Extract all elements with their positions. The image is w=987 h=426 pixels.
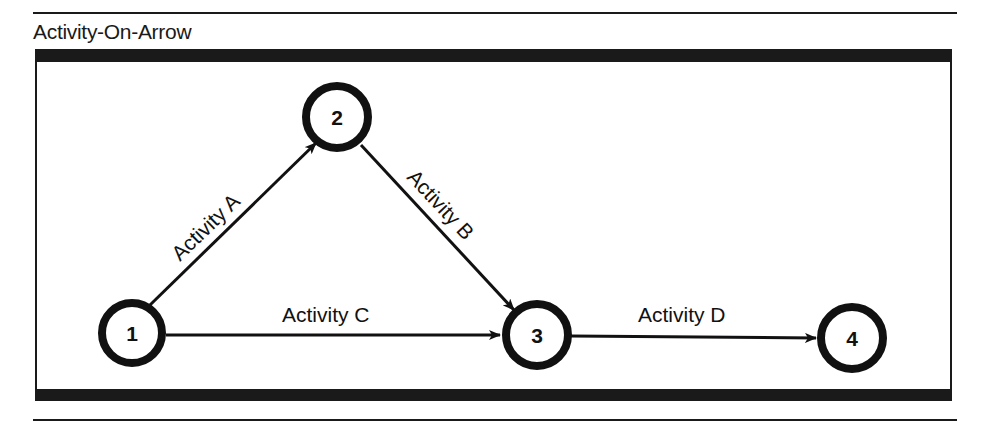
node-label: 2 [331,106,343,129]
edge-activity-c: Activity C [166,303,500,335]
node-label: 4 [846,327,858,350]
node-2: 2 [306,86,368,148]
edge-activity-a: Activity A [150,143,316,305]
arrow-d [571,336,816,338]
edge-label-d: Activity D [638,303,726,326]
edge-label-a: Activity A [167,189,244,265]
activity-on-arrow-diagram: Activity A Activity B Activity C Activit… [0,0,987,426]
node-1: 1 [102,303,162,363]
edge-label-c: Activity C [282,303,370,326]
node-3: 3 [506,304,568,366]
node-label: 1 [126,322,138,345]
edge-activity-b: Activity B [361,145,514,310]
arrow-a [150,143,316,305]
edge-activity-d: Activity D [571,303,816,338]
node-4: 4 [821,307,883,369]
arrow-b [361,145,514,310]
node-label: 3 [531,324,543,347]
